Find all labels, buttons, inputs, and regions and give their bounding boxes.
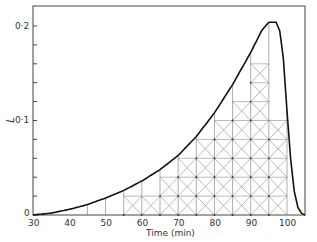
lattice-node (250, 214, 252, 216)
lattice-node (250, 176, 252, 178)
y-tick-0: 0 (24, 209, 30, 218)
lattice-node (268, 195, 270, 197)
lattice-node (214, 176, 216, 178)
lattice-node (268, 176, 270, 178)
x-tick-90: 90 (246, 219, 257, 228)
x-tick-100: 100 (279, 219, 296, 228)
x-axis-label: Time (min) (146, 229, 195, 238)
lattice-node (195, 176, 197, 178)
lattice-node (232, 176, 234, 178)
lattice-node (214, 214, 216, 216)
lattice-node (159, 214, 161, 216)
lattice-node (214, 195, 216, 197)
x-tick-50: 50 (101, 219, 112, 228)
lattice-node (141, 214, 143, 216)
lattice-node (268, 157, 270, 159)
lattice-node (250, 157, 252, 159)
lattice-node (123, 214, 125, 216)
lattice-node (250, 120, 252, 122)
lattice-node (214, 139, 216, 141)
lattice-node (195, 214, 197, 216)
lattice-node (232, 214, 234, 216)
lattice-node (159, 195, 161, 197)
lattice-node (268, 214, 270, 216)
y-tick-0-2: 0·2 (15, 22, 29, 31)
x-tick-40: 40 (64, 219, 75, 228)
x-tick-30: 30 (28, 219, 39, 228)
lattice-node (177, 195, 179, 197)
lattice-node (250, 82, 252, 84)
x-tick-60: 60 (137, 219, 148, 228)
lattice-node (250, 139, 252, 141)
lattice-node (177, 214, 179, 216)
plot-frame (33, 6, 305, 215)
lattice-node (232, 139, 234, 141)
lattice-node (268, 139, 270, 141)
lattice-node (250, 101, 252, 103)
data-curve (33, 22, 305, 215)
lattice-node (232, 157, 234, 159)
lattice-node (195, 157, 197, 159)
lattice-node (232, 120, 234, 122)
lattice-node (232, 195, 234, 197)
lattice-node (214, 157, 216, 159)
lattice-node (195, 195, 197, 197)
x-tick-80: 80 (209, 219, 220, 228)
lattice-node (177, 176, 179, 178)
x-tick-70: 70 (173, 219, 184, 228)
chart-canvas (0, 0, 317, 242)
lattice-node (250, 195, 252, 197)
y-tick-0-1: 0·1 (15, 116, 29, 125)
y-axis-label: L (6, 117, 16, 123)
